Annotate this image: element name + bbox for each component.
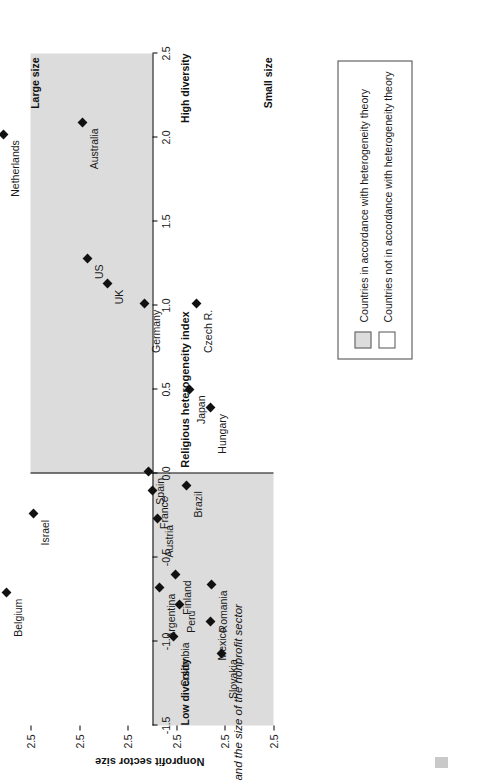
- legend-label-not-in-accordance: Countries not in accordance with heterog…: [381, 71, 393, 322]
- x-tick-label: 2.0: [159, 130, 171, 144]
- annotation-low-diversity: Low diversity: [178, 658, 190, 725]
- x-tick-label: -1.5: [159, 716, 171, 733]
- y-tick: [176, 725, 177, 730]
- data-point: [191, 298, 201, 308]
- annotation-large-size: Large size: [28, 57, 40, 108]
- y-tick: [30, 725, 31, 730]
- x-tick: [152, 640, 157, 641]
- figure-caption-wrap: Figure 6.1 Religious heterogeneity and t…: [225, 219, 255, 783]
- data-point-label: Brazil: [191, 491, 203, 517]
- data-point-label: Peru: [184, 610, 196, 632]
- x-tick: [152, 220, 157, 221]
- data-point-label: Czech R.: [201, 309, 213, 352]
- data-point-label: Israel: [38, 519, 50, 545]
- data-point: [28, 508, 38, 518]
- chart-legend: Countries in accordance with heterogenei…: [337, 60, 412, 359]
- data-point-label: Australia: [87, 128, 99, 169]
- x-tick: [152, 388, 157, 389]
- y-tick-label: 2.5: [121, 734, 133, 748]
- x-tick: [152, 556, 157, 557]
- x-tick: [152, 136, 157, 137]
- legend-swatch-gray: [354, 331, 371, 348]
- y-tick: [273, 725, 274, 730]
- x-tick: [152, 52, 157, 53]
- data-point-label: Germany: [149, 309, 161, 352]
- data-point: [1, 587, 11, 597]
- annotation-small-size: Small size: [261, 57, 273, 108]
- data-point-label: US: [92, 264, 104, 279]
- legend-label-in-accordance: Countries in accordance with heterogenei…: [357, 89, 369, 322]
- data-point-label: Japan: [194, 395, 206, 424]
- data-point-label: Argentina: [164, 593, 176, 638]
- shaded-quadrant-upper-right: [30, 53, 152, 473]
- data-point-label: Belgium: [11, 598, 23, 636]
- caption-marker-swatch: [435, 757, 448, 768]
- data-point-label: Spain: [153, 477, 165, 504]
- x-axis-title: Religious heterogeneity index: [178, 311, 190, 467]
- y-tick: [127, 725, 128, 730]
- data-point: [0, 129, 8, 139]
- y-tick-label: 2.5: [267, 734, 279, 748]
- x-tick: [152, 304, 157, 305]
- legend-swatch-white: [378, 331, 395, 348]
- x-tick-label: 0.5: [159, 382, 171, 396]
- data-point-label: Finland: [180, 580, 192, 614]
- y-axis-title: Nonprofit sector size: [94, 755, 203, 767]
- data-point-label: UK: [112, 289, 124, 304]
- x-tick-label: 2.5: [159, 46, 171, 60]
- x-tick: [152, 724, 157, 725]
- data-point-label: Netherlands: [8, 140, 20, 197]
- y-tick-label: 2.5: [24, 734, 36, 748]
- annotation-high-diversity: High diversity: [178, 53, 190, 122]
- legend-item-not-in-accordance: Countries not in accordance with heterog…: [378, 71, 395, 348]
- y-tick-label: 2.5: [73, 734, 85, 748]
- y-tick-label: 2.5: [170, 734, 182, 748]
- figure-caption: Figure 6.1 Religious heterogeneity and t…: [231, 179, 243, 783]
- y-tick: [79, 725, 80, 730]
- data-point-label: Austria: [162, 524, 174, 557]
- legend-item-in-accordance: Countries in accordance with heterogenei…: [354, 71, 371, 348]
- x-tick-label: 1.5: [159, 214, 171, 228]
- figure-caption-text: Religious heterogeneity and the size of …: [231, 604, 243, 783]
